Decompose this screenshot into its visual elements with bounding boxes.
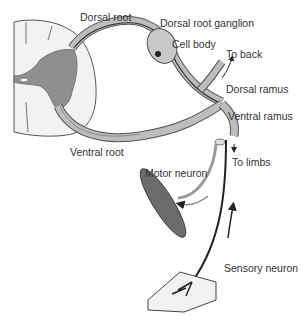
label-motor-neuron: Motor neuron — [145, 167, 207, 179]
label-dorsal-ramus: Dorsal ramus — [226, 83, 288, 95]
label-dorsal-root: Dorsal root — [80, 11, 131, 23]
label-cell-body: Cell body — [172, 38, 216, 50]
label-to-back: To back — [226, 48, 262, 60]
sensory-neuron-path — [192, 140, 226, 282]
label-dorsal-root-ganglion: Dorsal root ganglion — [160, 17, 254, 29]
skin-block — [148, 272, 216, 312]
label-to-limbs: To limbs — [232, 156, 271, 168]
label-ventral-root: Ventral root — [70, 146, 124, 158]
label-sensory-neuron: Sensory neuron — [224, 262, 298, 274]
spinal-nerve-diagram: Dorsal root Dorsal root ganglion Cell bo… — [0, 0, 305, 316]
cell-body-dot — [155, 51, 161, 57]
label-ventral-ramus: Ventral ramus — [228, 110, 293, 122]
